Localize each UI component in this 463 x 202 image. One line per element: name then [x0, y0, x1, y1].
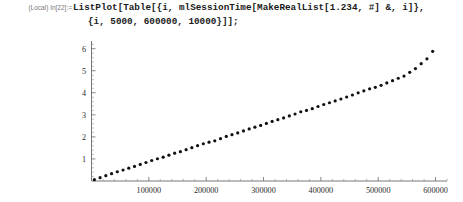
y-tick-label: 1: [82, 155, 86, 164]
data-point: [185, 148, 188, 151]
data-point: [196, 144, 199, 147]
data-point: [379, 84, 382, 87]
data-point: [162, 156, 165, 159]
data-point: [311, 107, 314, 110]
data-point: [225, 135, 228, 138]
y-tick-label: 3: [82, 111, 86, 120]
code-line-1: ListPlot[Table[{i, mlSessionTime[MakeRea…: [73, 1, 424, 15]
data-point: [248, 127, 251, 130]
x-tick-label: 200000: [194, 186, 219, 195]
data-point: [242, 129, 245, 132]
data-point: [368, 87, 371, 90]
data-point: [402, 74, 405, 77]
data-point: [110, 172, 113, 175]
y-tick-label: 2: [82, 133, 86, 142]
data-point: [334, 99, 337, 102]
x-tick-label: 100000: [137, 186, 162, 195]
list-plot-scatter: 1000002000003000004000005000006000001234…: [0, 34, 463, 202]
data-point: [345, 95, 348, 98]
data-point: [322, 103, 325, 106]
data-point: [271, 120, 274, 123]
data-point: [121, 168, 124, 171]
data-point: [265, 122, 268, 125]
plot-axes: [92, 41, 448, 181]
data-point: [276, 118, 279, 121]
data-point: [93, 178, 96, 181]
input-cell[interactable]: (Local) In[22]:= ListPlot[Table[{i, mlSe…: [0, 0, 463, 34]
data-point: [104, 174, 107, 177]
data-point: [425, 57, 428, 60]
data-point: [259, 124, 262, 127]
data-point: [179, 150, 182, 153]
data-point: [144, 161, 147, 164]
data-point: [282, 116, 285, 119]
data-point: [408, 71, 411, 74]
data-point: [230, 133, 233, 136]
data-point: [431, 50, 434, 53]
x-tick-label: 300000: [251, 186, 276, 195]
data-point: [99, 176, 102, 179]
y-tick-label: 5: [82, 67, 86, 76]
x-tick-label: 400000: [309, 186, 334, 195]
data-point: [293, 112, 296, 115]
data-point: [190, 146, 193, 149]
data-point: [414, 67, 417, 70]
data-point: [420, 62, 423, 65]
data-point: [316, 105, 319, 108]
data-point: [339, 97, 342, 100]
data-point: [391, 79, 394, 82]
input-prompt-label: (Local) In[22]:=: [14, 4, 72, 11]
data-point: [305, 109, 308, 112]
graphics-output-cell[interactable]: 1000002000003000004000005000006000001234…: [0, 34, 463, 202]
data-point: [173, 152, 176, 155]
data-point: [133, 165, 136, 168]
data-point: [253, 126, 256, 129]
data-point: [397, 77, 400, 80]
data-point: [127, 167, 130, 170]
data-point: [156, 157, 159, 160]
data-point: [374, 86, 377, 89]
data-point: [288, 114, 291, 117]
data-point: [219, 137, 222, 140]
data-point: [385, 81, 388, 84]
data-point: [207, 141, 210, 144]
data-point: [299, 110, 302, 113]
data-point: [202, 142, 205, 145]
data-point: [236, 131, 239, 134]
data-series-points: [93, 50, 435, 182]
data-point: [167, 154, 170, 157]
data-point: [362, 89, 365, 92]
y-axis-ticks: 123456: [82, 45, 96, 164]
data-point: [357, 91, 360, 94]
x-tick-label: 600000: [423, 186, 448, 195]
y-tick-label: 6: [82, 45, 86, 54]
data-point: [139, 163, 142, 166]
x-tick-label: 500000: [366, 186, 391, 195]
code-line-2: {i, 5000, 600000, 10000}]];: [88, 15, 239, 29]
data-point: [116, 170, 119, 173]
y-tick-label: 4: [82, 89, 86, 98]
data-point: [351, 93, 354, 96]
notebook-document: (Local) In[22]:= ListPlot[Table[{i, mlSe…: [0, 0, 463, 202]
data-point: [328, 101, 331, 104]
data-point: [150, 159, 153, 162]
data-point: [213, 139, 216, 142]
